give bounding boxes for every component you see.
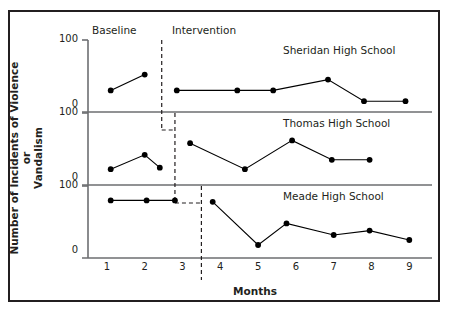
data-point (255, 242, 261, 248)
series-line-meade-high-school-intervention (213, 202, 410, 245)
data-point (108, 88, 114, 94)
x-tick-label-2: 2 (138, 261, 152, 272)
data-point (108, 166, 114, 172)
x-tick-label-4: 4 (213, 261, 227, 272)
data-point (406, 237, 412, 243)
series-line-sheridan-high-school-intervention (177, 80, 406, 102)
x-tick-label-7: 7 (327, 261, 341, 272)
y-tick-label-0-panel-1: 0 (52, 171, 78, 182)
x-tick-label-5: 5 (251, 261, 265, 272)
data-point (174, 88, 180, 94)
y-tick-label-100-panel-0: 100 (52, 33, 78, 44)
data-point (242, 166, 248, 172)
panel-title-meade-high-school: Meade High School (283, 190, 384, 202)
series-line-thomas-high-school-intervention (190, 140, 370, 169)
x-tick-label-3: 3 (176, 261, 190, 272)
series-line-thomas-high-school-baseline (111, 155, 160, 169)
data-point (157, 165, 163, 171)
phase-change-line-panel-1 (175, 113, 201, 203)
data-point (403, 98, 409, 104)
data-point (289, 138, 295, 144)
data-point (325, 77, 331, 83)
data-point (142, 152, 148, 158)
data-point (108, 198, 114, 204)
phase-change-lines (162, 40, 202, 280)
data-point (172, 198, 178, 204)
x-tick-label-8: 8 (365, 261, 379, 272)
y-tick-label-0-panel-2: 0 (52, 244, 78, 255)
x-axis-label: Months (185, 285, 325, 297)
data-point (142, 72, 148, 78)
data-point (367, 157, 373, 163)
data-point (361, 98, 367, 104)
y-tick-label-0-panel-0: 0 (52, 98, 78, 109)
phase-change-line-panel-0 (162, 40, 175, 130)
data-point (270, 88, 276, 94)
series-line-sheridan-high-school-baseline (111, 75, 145, 91)
data-point (144, 198, 150, 204)
data-point (234, 88, 240, 94)
panel-title-sheridan-high-school: Sheridan High School (283, 44, 395, 56)
x-tick-label-9: 9 (402, 261, 416, 272)
data-series-layer (108, 72, 412, 248)
data-point (367, 228, 373, 234)
data-point (329, 157, 335, 163)
x-tick-label-1: 1 (100, 261, 114, 272)
figure-root: Number of Incidents of Violence or Vanda… (0, 0, 449, 312)
x-tick-label-6: 6 (289, 261, 303, 272)
data-point (331, 232, 337, 238)
data-point (187, 140, 193, 146)
data-point (210, 199, 216, 205)
panel-title-thomas-high-school: Thomas High School (283, 117, 390, 129)
data-point (284, 221, 290, 227)
axes-layer (82, 40, 432, 258)
